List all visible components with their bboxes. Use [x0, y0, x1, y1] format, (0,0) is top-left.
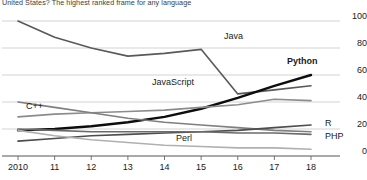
y-axis-label-80: 80: [341, 38, 367, 48]
chart-plot-area: [0, 0, 367, 180]
series-label-php: PHP: [325, 131, 344, 141]
x-axis-label-12: 12: [71, 162, 111, 172]
y-axis-label-100: 100: [341, 11, 367, 21]
series-label-r: R: [325, 118, 332, 128]
x-axis-ticks: [18, 156, 311, 160]
series-label-cpp: C++: [26, 101, 43, 111]
y-axis-label-40: 40: [341, 92, 367, 102]
series-label-javascript: JavaScript: [152, 77, 194, 87]
x-axis-label-2010: 2010: [0, 162, 38, 172]
x-axis-label-11: 11: [35, 162, 75, 172]
series-label-perl: Perl: [176, 133, 192, 143]
y-axis-label-20: 20: [341, 119, 367, 129]
x-axis-label-14: 14: [145, 162, 185, 172]
line-chart: United States? The highest ranked frame …: [0, 0, 367, 180]
x-axis-label-17: 17: [254, 162, 294, 172]
x-axis-label-13: 13: [108, 162, 148, 172]
series-label-python: Python: [287, 56, 318, 66]
x-axis-label-18: 18: [291, 162, 331, 172]
y-axis-label-0: 0: [341, 146, 367, 156]
x-axis-label-15: 15: [181, 162, 221, 172]
y-axis-label-60: 60: [341, 65, 367, 75]
series-label-java: Java: [224, 31, 243, 41]
x-axis-label-16: 16: [218, 162, 258, 172]
